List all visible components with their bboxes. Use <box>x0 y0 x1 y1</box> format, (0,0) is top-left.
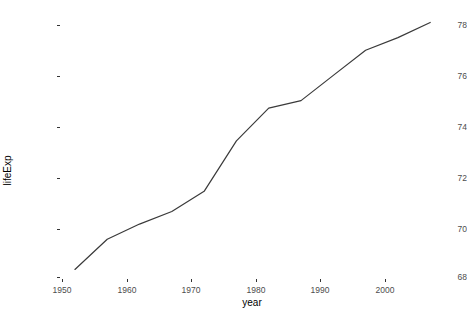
x-tick-label-1950: 1950 <box>42 286 82 295</box>
lifeexp-line-series <box>57 10 457 282</box>
plot-panel <box>57 10 457 282</box>
x-tick-label-2000: 2000 <box>365 286 405 295</box>
x-axis-title-label: year <box>242 297 261 308</box>
x-axis-title: year <box>62 297 442 308</box>
line-path <box>75 22 430 269</box>
y-axis-title-label: lifeExp <box>2 10 13 321</box>
x-tick-label-1980: 1980 <box>236 286 276 295</box>
chart-container: lifeExp year 78 76 74 72 70 68 1950 1960… <box>0 0 467 321</box>
x-tick-label-1990: 1990 <box>300 286 340 295</box>
y-axis-title: lifeExp <box>0 0 14 321</box>
x-tick-label-1960: 1960 <box>107 286 147 295</box>
x-tick-label-1970: 1970 <box>171 286 211 295</box>
